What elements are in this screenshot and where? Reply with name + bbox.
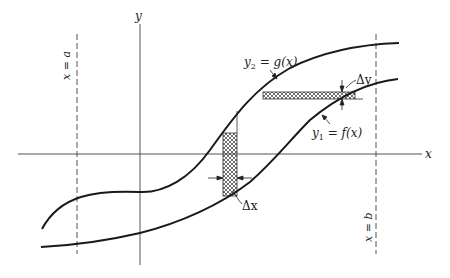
line-b-label: x = b (362, 213, 375, 242)
vertical-strip (223, 133, 237, 196)
lower-curve-f (41, 79, 398, 247)
x-axis-label: x (425, 147, 432, 161)
lower-curve-label: y1 = f(x) (311, 126, 362, 142)
delta-x-label: Δx (242, 199, 258, 213)
area-between-curves-diagram: x y x = a x = b Δx Δy y2 = g(x) (0, 0, 450, 278)
y-axis-label: y (134, 9, 142, 23)
line-a-label: x = a (60, 51, 73, 80)
upper-curve-label: y2 = g(x) (243, 55, 298, 71)
delta-y-label: Δy (356, 73, 372, 87)
lower-curve-leader (322, 115, 330, 124)
